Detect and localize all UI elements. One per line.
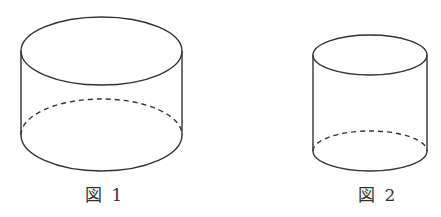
cylinder-figure-2 (313, 35, 427, 171)
cylinder-2-top-face (313, 35, 427, 75)
cylinder-2-bottom-front-arc (313, 151, 427, 171)
cylinder-figure-1 (21, 17, 182, 171)
cylinder-1-bottom-hidden-arc (21, 99, 182, 135)
cylinder-1-bottom-front-arc (21, 135, 182, 171)
cylinder-2-bottom-hidden-arc (313, 131, 427, 151)
figure-2-caption: 図 2 (358, 181, 397, 206)
figure-1-caption: 図 1 (85, 181, 124, 206)
cylinder-1-top-face (21, 17, 182, 85)
